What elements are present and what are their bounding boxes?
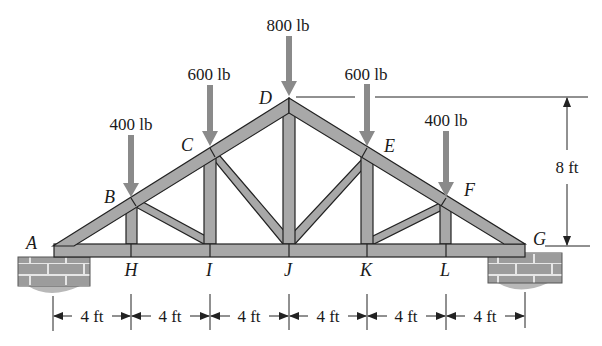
load-arrow-C (202, 85, 218, 146)
member-FK (365, 201, 450, 244)
load-label-F: 400 lb (425, 111, 468, 130)
load-arrow-D (281, 36, 297, 96)
member-EJ (286, 156, 372, 244)
load-arrow-B (123, 135, 139, 197)
load-arrow-E (359, 84, 375, 146)
member-CJ (213, 156, 292, 244)
node-label-F: F (463, 180, 476, 200)
node-label-L: L (439, 260, 450, 280)
node-label-B: B (104, 187, 115, 207)
span-label-HI: 4 ft (158, 307, 181, 326)
support-left (18, 257, 90, 293)
member-DJ (283, 104, 295, 244)
member-EK (361, 155, 373, 244)
member-CI (204, 155, 216, 244)
load-label-C: 600 lb (188, 65, 231, 84)
node-label-C: C (181, 135, 194, 155)
node-label-G: G (533, 229, 546, 249)
span-label-AH: 4 ft (80, 307, 103, 326)
support-right (488, 253, 562, 290)
node-label-E: E (383, 136, 395, 156)
truss-diagram: 400 lb 600 lb 800 lb 600 lb 400 lb A B C… (0, 0, 602, 346)
load-arrow-F (438, 131, 454, 197)
height-dimension-label: 8 ft (555, 158, 578, 177)
span-label-IJ: 4 ft (237, 307, 260, 326)
span-dimensions (53, 292, 525, 331)
node-label-K: K (359, 260, 373, 280)
span-label-KL: 4 ft (394, 307, 417, 326)
node-label-A: A (25, 233, 38, 253)
load-label-D: 800 lb (267, 16, 310, 35)
node-label-H: H (124, 260, 139, 280)
node-label-J: J (284, 260, 293, 280)
node-label-D: D (258, 88, 272, 108)
member-BI (134, 201, 213, 244)
load-label-E: 600 lb (345, 65, 388, 84)
span-label-LG: 4 ft (473, 307, 496, 326)
load-label-B: 400 lb (110, 115, 153, 134)
node-label-I: I (205, 260, 213, 280)
span-label-JK: 4 ft (316, 307, 339, 326)
